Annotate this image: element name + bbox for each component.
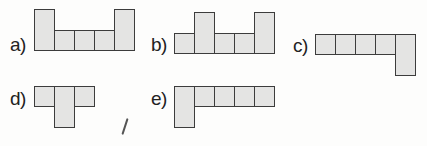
- square: [214, 33, 235, 54]
- square: [254, 86, 275, 107]
- square: [194, 12, 215, 54]
- square: [74, 86, 95, 107]
- square: [315, 34, 336, 55]
- figure-label-b: b): [151, 35, 167, 54]
- square: [34, 9, 55, 51]
- square: [234, 86, 255, 107]
- square: [94, 30, 115, 51]
- figure-label-c: c): [293, 36, 308, 55]
- square: [214, 86, 235, 107]
- pen-mark: [121, 118, 128, 135]
- square: [54, 30, 75, 51]
- square: [174, 86, 195, 128]
- square: [194, 86, 215, 107]
- square: [375, 34, 396, 55]
- square: [34, 86, 55, 107]
- square: [54, 86, 75, 128]
- figure-label-a: a): [10, 35, 26, 54]
- square: [234, 33, 255, 54]
- square: [174, 33, 195, 54]
- square: [114, 9, 135, 51]
- figure-label-d: d): [10, 89, 26, 108]
- square: [335, 34, 356, 55]
- square: [355, 34, 376, 55]
- square: [395, 34, 416, 76]
- square: [74, 30, 95, 51]
- figure-label-e: e): [151, 89, 167, 108]
- square: [254, 12, 275, 54]
